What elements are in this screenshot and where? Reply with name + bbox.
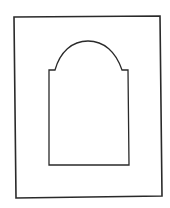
diagram-canvas: Line drawing of a rectangular frame cont… xyxy=(0,0,170,208)
outer-frame xyxy=(14,16,162,198)
frame-diagram xyxy=(0,0,170,208)
arched-window-opening xyxy=(49,41,129,165)
